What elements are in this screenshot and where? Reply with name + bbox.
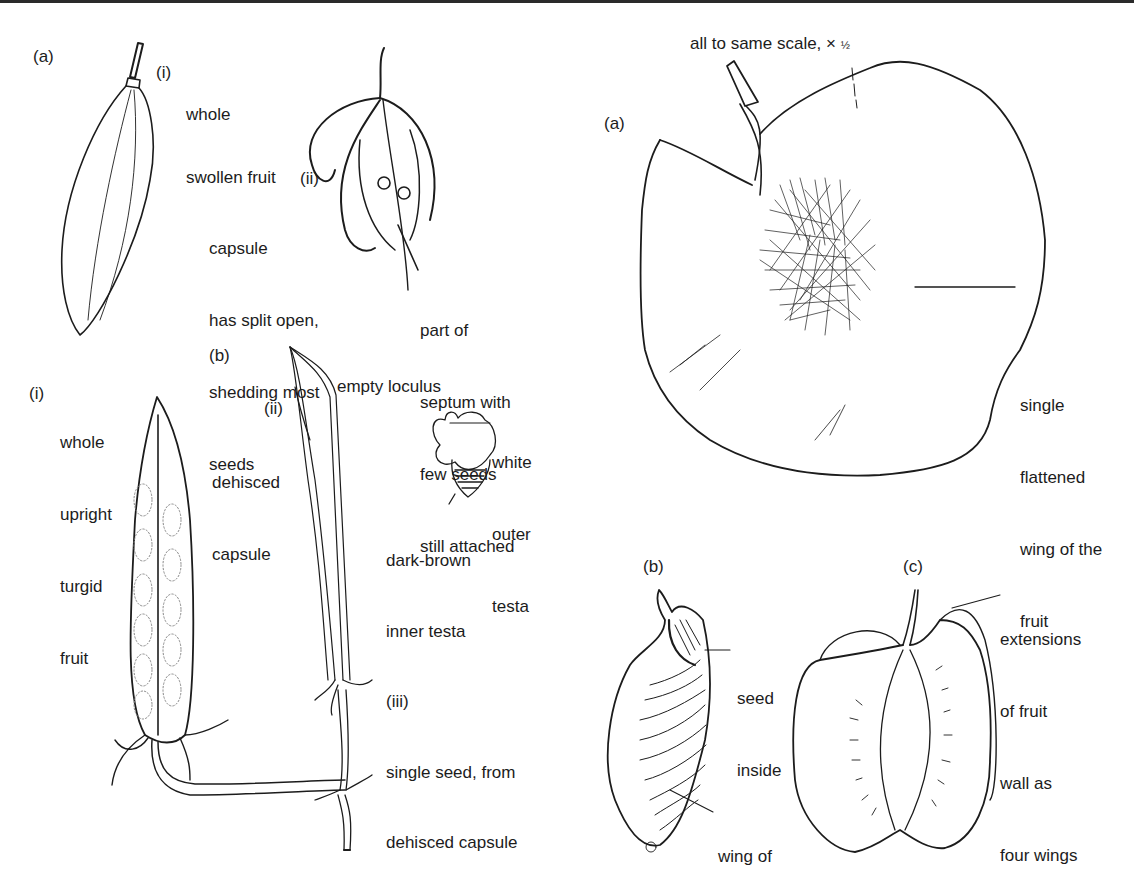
left-part-b-label: (b)	[209, 345, 230, 366]
wing-of-fruit-annotation: wing of the fruit	[718, 797, 775, 883]
seed-inside-annotation: seed inside	[737, 639, 781, 807]
scale-fraction: ½	[841, 39, 850, 51]
botanical-illustration	[0, 0, 1134, 883]
flattened-wing-fruit-drawing	[641, 61, 1045, 476]
left-b-i-caption: whole upright turgid fruit	[60, 383, 112, 695]
right-part-c-label: (c)	[903, 556, 923, 577]
split-capsule-drawing	[310, 48, 435, 290]
left-a-ii-number: (ii)	[300, 168, 319, 189]
seed-iii-caption: dark-brown inner testa (iii) single seed…	[386, 502, 524, 883]
left-a-i-caption: whole swollen fruit	[186, 62, 276, 209]
left-b-ii-caption: dehisced capsule	[212, 423, 280, 591]
four-wings-annotation: extensions of fruit wall as four wings	[1000, 580, 1081, 883]
right-part-b-label: (b)	[643, 556, 664, 577]
left-b-ii-number: (ii)	[264, 398, 283, 419]
left-b-i-number: (i)	[29, 383, 44, 404]
right-part-a-label: (a)	[604, 113, 625, 134]
single-winged-fruit-drawing	[608, 590, 730, 852]
left-a-i-number: (i)	[156, 62, 171, 83]
four-winged-fruit-drawing	[793, 590, 1000, 852]
left-part-a-label: (a)	[33, 46, 54, 67]
empty-loculus-annotation: empty loculus	[337, 376, 441, 397]
scale-note: all to same scale, × ½	[690, 33, 850, 56]
swollen-fruit-drawing	[62, 43, 154, 335]
